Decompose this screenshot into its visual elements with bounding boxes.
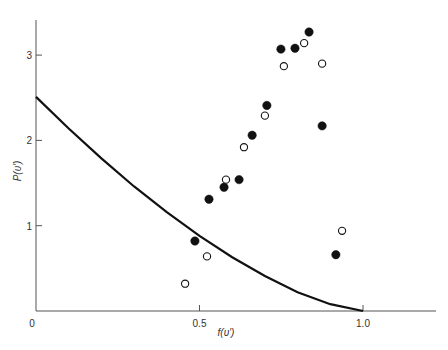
y-tick-label: 1 (26, 221, 32, 232)
data-point-filled (318, 122, 326, 130)
y-tick-label: 3 (26, 50, 32, 61)
data-point-open (301, 40, 308, 47)
data-point-filled (191, 237, 199, 245)
data-point-open (280, 63, 287, 70)
data-point-open (203, 253, 210, 260)
fit-curve (36, 97, 363, 311)
data-point-filled (291, 44, 299, 52)
y-axis-label: P(υ′) (12, 161, 23, 182)
data-point-filled (263, 101, 271, 109)
data-point-filled (205, 195, 213, 203)
data-point-filled (248, 131, 256, 139)
x-axis-label: f(υ′) (218, 327, 235, 338)
y-tick-label: 2 (26, 135, 32, 146)
x-tick-label: 1.0 (356, 318, 370, 329)
data-point-open (319, 60, 326, 67)
data-point-filled (220, 183, 228, 191)
data-point-filled (277, 45, 285, 53)
x-tick-label: 0 (29, 318, 35, 329)
x-tick-label: 0.5 (193, 318, 207, 329)
data-point-open (222, 176, 229, 183)
data-point-filled (305, 28, 313, 36)
data-point-open (182, 280, 189, 287)
data-point-filled (332, 251, 340, 259)
chart: 00.51.0123 f(υ′) P(υ′) (0, 0, 448, 350)
data-point-open (261, 112, 268, 119)
data-point-open (240, 144, 247, 151)
data-point-open (338, 227, 345, 234)
axes (36, 20, 436, 311)
data-point-filled (235, 175, 243, 183)
